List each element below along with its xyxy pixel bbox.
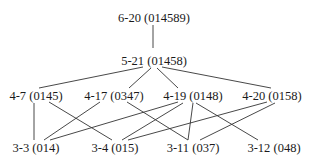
node-4-19: 4-19 (0148): [163, 89, 222, 103]
edge-4-20-to-3-11: [200, 103, 275, 140]
edge-5-21-to-4-20: [162, 67, 271, 88]
node-3-11: 3-11 (037): [167, 141, 220, 155]
edges: [34, 25, 275, 140]
node-3-3: 3-3 (014): [13, 141, 60, 155]
edge-4-7-to-3-4: [49, 102, 112, 140]
edge-5-21-to-4-17: [129, 68, 151, 88]
edge-4-19-to-3-4: [122, 103, 183, 140]
edge-4-17-to-3-3: [44, 102, 100, 140]
node-4-20: 4-20 (0158): [242, 89, 301, 103]
node-5-21: 5-21 (01458): [121, 54, 187, 68]
node-3-4: 3-4 (015): [92, 141, 139, 155]
edge-4-20-to-3-4: [128, 102, 267, 140]
node-4-17: 4-17 (0347): [84, 89, 143, 103]
edge-4-19-to-3-3: [50, 102, 178, 140]
node-3-12: 3-12 (048): [247, 141, 300, 155]
node-6-20: 6-20 (014589): [118, 11, 190, 25]
edge-5-21-to-4-19: [157, 68, 178, 88]
edge-5-21-to-4-7: [39, 67, 143, 88]
node-4-7: 4-7 (0145): [9, 89, 62, 103]
subset-lattice-diagram: 6-20 (014589) 5-21 (01458) 4-7 (0145) 4-…: [0, 0, 311, 161]
edge-4-19-to-3-12: [196, 103, 258, 140]
edge-4-19-to-3-11: [188, 103, 193, 140]
